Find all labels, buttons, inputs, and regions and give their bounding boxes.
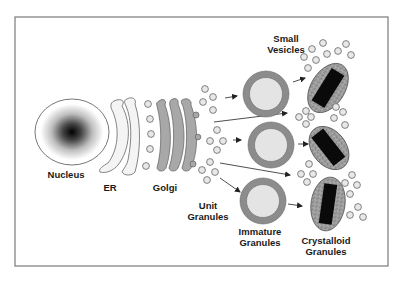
label-small-vesicles: Small Vesicles [263,33,309,55]
label-nucleus: Nucleus [41,169,91,180]
label-crystalloid-granules-line1: Crystalloid [296,235,356,246]
label-immature-granules-line1: Immature [232,226,288,237]
label-immature-granules: Immature Granules [232,226,288,248]
label-crystalloid-granules: Crystalloid Granules [296,235,356,257]
label-small-vesicles-line1: Small [263,33,309,44]
label-unit-granules-line2: Granules [183,211,233,222]
label-unit-granules: Unit Granules [183,200,233,222]
nucleus [35,99,109,165]
immature-granules [240,71,294,224]
label-unit-granules-line1: Unit [183,200,233,211]
label-small-vesicles-line2: Vesicles [263,44,309,55]
label-er: ER [100,182,120,193]
label-golgi: Golgi [148,182,182,193]
label-immature-granules-line2: Granules [232,237,288,248]
label-crystalloid-granules-line2: Granules [296,246,356,257]
